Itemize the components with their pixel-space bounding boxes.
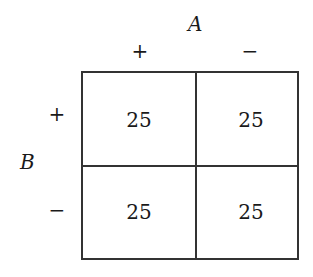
cell-plus-plus: 25 — [85, 75, 193, 165]
cell-plus-minus: 25 — [197, 75, 305, 165]
row-level-minus: − — [47, 200, 67, 220]
row-level-plus: + — [47, 104, 67, 124]
column-level-plus: + — [130, 41, 150, 61]
cell-minus-minus: 25 — [197, 167, 305, 257]
row-variable-label: B — [20, 152, 35, 172]
cell-minus-plus: 25 — [85, 167, 193, 257]
table-grid: 25 25 25 25 — [81, 71, 299, 260]
column-variable-label: A — [188, 14, 202, 34]
column-level-minus: − — [240, 41, 260, 61]
